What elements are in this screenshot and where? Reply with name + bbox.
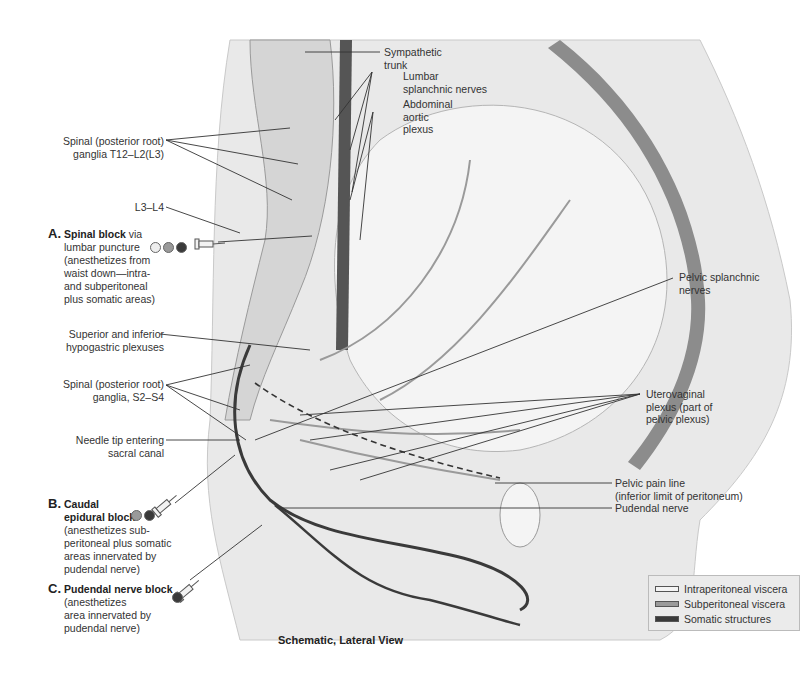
label-line: Spinal (posterior root)	[60, 135, 164, 148]
subperitoneal-swatch-icon	[655, 601, 679, 607]
block-c-dots	[172, 588, 185, 606]
subperitoneal-dot-icon	[163, 242, 174, 253]
label-needle-tip: Needle tip entering sacral canal	[60, 434, 164, 459]
label-pelvic-splanchnic: Pelvic splanchnic nerves	[679, 271, 760, 296]
block-title: Spinal block	[64, 228, 126, 240]
label-hypogastric-plexuses: Superior and inferior hypogastric plexus…	[50, 328, 164, 353]
legend-item-subperitoneal: Subperitoneal viscera	[655, 596, 793, 611]
label-line: Abdominal	[403, 98, 453, 111]
block-c-pudendal: C. Pudendal nerve block (anesthetizes ar…	[64, 583, 184, 635]
block-line: and subperitoneal	[64, 280, 184, 293]
block-title: epidural block	[64, 511, 194, 524]
block-title: Pudendal nerve block	[64, 583, 184, 596]
label-pudendal-nerve: Pudendal nerve	[615, 502, 689, 515]
legend-label: Intraperitoneal viscera	[684, 583, 787, 595]
label-line: aortic	[403, 111, 453, 124]
block-line: waist down—intra-	[64, 267, 184, 280]
label-line: splanchnic nerves	[403, 83, 487, 96]
label-uterovaginal-plexus: Uterovaginal plexus (part of pelvic plex…	[646, 388, 713, 426]
label-spinal-ganglia-s2: Spinal (posterior root) ganglia, S2–S4	[50, 378, 164, 403]
somatic-swatch-icon	[655, 616, 679, 622]
label-line: nerves	[679, 284, 760, 297]
label-line: Uterovaginal	[646, 388, 713, 401]
label-line: hypogastric plexuses	[50, 341, 164, 354]
intraperitoneal-swatch-icon	[655, 586, 679, 592]
label-abdominal-aortic-plexus: Abdominal aortic plexus	[403, 98, 453, 136]
block-b-caudal-epidural: B. Caudal epidural block (anesthetizes s…	[64, 498, 194, 576]
somatic-dot-icon	[172, 592, 183, 603]
label-line: Pelvic pain line	[615, 477, 743, 490]
label-line: plexus (part of	[646, 401, 713, 414]
block-a-dots	[150, 238, 189, 256]
block-line: areas innervated by	[64, 550, 194, 563]
block-letter: A.	[48, 227, 61, 240]
block-line: (anesthetizes sub-	[64, 524, 194, 537]
block-letter: B.	[48, 497, 61, 510]
label-line: ganglia, S2–S4	[50, 391, 164, 404]
figure-caption: Schematic, Lateral View	[278, 634, 403, 646]
subperitoneal-dot-icon	[131, 510, 142, 521]
label-line: ganglia T12–L2(L3)	[60, 148, 164, 161]
legend-item-somatic: Somatic structures	[655, 611, 793, 626]
label-line: Sympathetic	[384, 46, 442, 59]
somatic-dot-icon	[144, 510, 155, 521]
label-spinal-ganglia-t12: Spinal (posterior root) ganglia T12–L2(L…	[60, 135, 164, 160]
label-pelvic-pain-line: Pelvic pain line (inferior limit of peri…	[615, 477, 743, 502]
label-line: Superior and inferior	[50, 328, 164, 341]
block-line: plus somatic areas)	[64, 293, 184, 306]
label-line: Needle tip entering	[60, 434, 164, 447]
label-line: Spinal (posterior root)	[50, 378, 164, 391]
block-line: (anesthetizes	[64, 596, 184, 609]
block-title-suffix: via	[126, 228, 142, 240]
label-line: plexus	[403, 123, 453, 136]
label-line: Lumbar	[403, 70, 487, 83]
intraperitoneal-dot-icon	[150, 242, 161, 253]
block-line: pudendal nerve)	[64, 563, 194, 576]
block-letter: C.	[48, 582, 61, 595]
label-l3-l4: L3–L4	[110, 201, 164, 214]
block-line: pudendal nerve)	[64, 622, 184, 635]
label-line: (inferior limit of peritoneum)	[615, 490, 743, 503]
somatic-dot-icon	[176, 242, 187, 253]
label-line: pelvic plexus)	[646, 413, 713, 426]
block-b-dots	[131, 506, 157, 524]
label-lumbar-splanchnic: Lumbar splanchnic nerves	[403, 70, 487, 95]
block-title: Caudal	[64, 498, 194, 511]
label-sympathetic-trunk: Sympathetic trunk	[384, 46, 442, 71]
block-line: peritoneal plus somatic	[64, 537, 194, 550]
legend: Intraperitoneal viscera Subperitoneal vi…	[648, 575, 800, 631]
label-line: sacral canal	[60, 447, 164, 460]
legend-label: Somatic structures	[684, 613, 771, 625]
label-line: Pelvic splanchnic	[679, 271, 760, 284]
legend-label: Subperitoneal viscera	[684, 598, 785, 610]
legend-item-intraperitoneal: Intraperitoneal viscera	[655, 581, 793, 596]
bladder	[500, 483, 540, 547]
block-line: area innervated by	[64, 609, 184, 622]
